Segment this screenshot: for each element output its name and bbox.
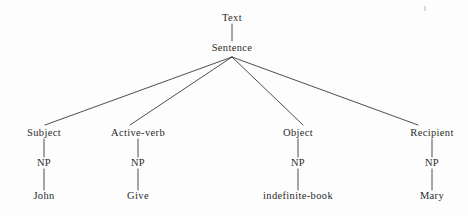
node-leaf-mary: Mary [420, 191, 444, 202]
edge-sentence-branch-1 [45, 57, 232, 125]
node-leaf-indefinite-book: indefinite-book [263, 191, 333, 202]
node-text-root: Text [222, 13, 242, 24]
node-role-object: Object [283, 128, 313, 139]
edge-sentence-branch-4 [232, 57, 418, 125]
node-np-recipient: NP [425, 158, 439, 169]
node-role-recipient: Recipient [410, 128, 453, 139]
node-role-subject: Subject [27, 128, 61, 139]
node-leaf-give: Give [127, 191, 149, 202]
edge-sentence-branch-3 [232, 57, 303, 125]
node-np-object: NP [291, 158, 305, 169]
edge-sentence-branch-2 [130, 57, 232, 125]
node-np-active-verb: NP [131, 158, 145, 169]
tree-edges [0, 0, 468, 216]
node-role-active-verb: Active-verb [111, 128, 165, 139]
node-np-subject: NP [37, 158, 51, 169]
node-leaf-john: John [33, 191, 54, 202]
parse-tree-diagram: Text Sentence Subject NP John Active-ver… [0, 0, 468, 216]
node-sentence: Sentence [212, 43, 253, 54]
scan-artifact-speck [424, 6, 426, 11]
